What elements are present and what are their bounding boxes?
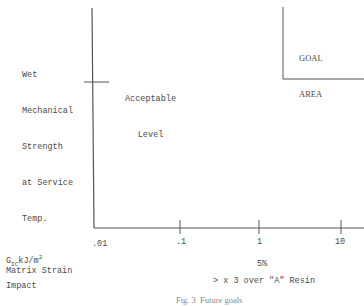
goal-area-label: GOAL AREA [299, 28, 323, 112]
y-axis [92, 8, 94, 228]
impact-value: > x 3 over "A" Resin [213, 275, 315, 287]
matrix-strain-label: Matrix Strain [6, 265, 72, 277]
acceptable-level-label: Acceptable Level [125, 69, 176, 153]
tick-label-10: 10 [335, 236, 345, 248]
y-axis-label: Wet Mechanical Strength at Service Temp. [22, 45, 73, 237]
impact-label: Impact [6, 280, 37, 292]
tick-label-0.01: .01 [92, 238, 107, 250]
figure-caption: Fig. 3 Future goals [176, 294, 242, 306]
tick-label-1: 1 [257, 236, 262, 248]
tick-label-0.1: .1 [176, 236, 186, 248]
matrix-strain-value: 5% [257, 258, 267, 270]
